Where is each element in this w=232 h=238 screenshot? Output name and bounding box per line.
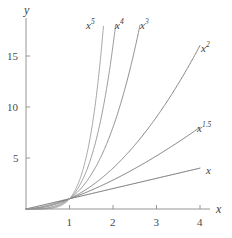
y-tick-label-5: 5 (13, 153, 19, 164)
curve-x-3 (26, 25, 140, 209)
curve-x-5 (26, 26, 103, 209)
curve-label-x-5: x5 (86, 20, 95, 31)
x-tick-label-3: 3 (154, 217, 160, 228)
curve-label-x-1-5: x1.5 (197, 123, 211, 134)
plot-canvas (0, 0, 232, 238)
curve-label-x-2: x2 (201, 43, 210, 54)
curve-label-x-3: x3 (140, 20, 149, 31)
x-tick-label-1: 1 (67, 217, 73, 228)
y-tick-label-10: 10 (7, 102, 18, 113)
curve-x (26, 168, 200, 209)
y-tick-label-15: 15 (7, 51, 18, 62)
x-axis-label: x (216, 203, 221, 215)
x-tick-label-4: 4 (197, 217, 203, 228)
curve-label-x: x (206, 165, 211, 176)
x-tick-label-2: 2 (110, 217, 116, 228)
curve-x-4 (26, 25, 116, 209)
curves-layer (26, 25, 200, 209)
curve-label-x-4: x4 (115, 20, 124, 31)
y-axis-label: y (24, 4, 29, 16)
power-function-plot: y x 123451015xx1.5x2x3x4x5 (0, 0, 232, 238)
